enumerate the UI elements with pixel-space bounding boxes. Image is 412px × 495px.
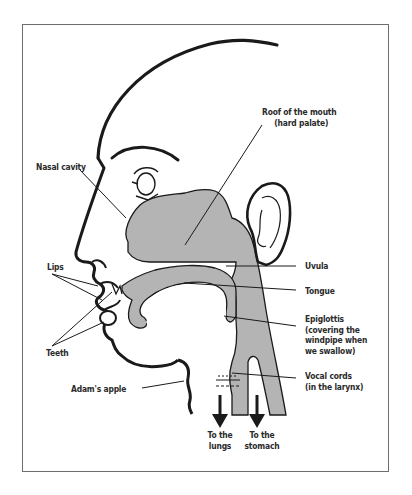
label-vocal-line1: Vocal cords <box>305 371 363 382</box>
label-adams-apple: Adam's apple <box>71 384 126 395</box>
skull-outline <box>98 40 277 158</box>
arrow-to-stomach-icon <box>249 395 265 428</box>
arrow-to-lungs-icon <box>212 395 228 428</box>
label-epiglottis: Epiglottis (covering the windpipe when w… <box>305 314 367 356</box>
label-nasal-cavity: Nasal cavity <box>36 162 86 173</box>
label-uvula: Uvula <box>305 261 328 272</box>
head-anatomy-illustration <box>0 0 412 495</box>
label-roof-line2: (hard palate) <box>262 118 336 129</box>
label-vocal-line2: (in the larynx) <box>305 382 363 393</box>
label-teeth: Teeth <box>46 348 69 359</box>
label-tongue: Tongue <box>305 286 335 297</box>
brow-line <box>112 147 178 160</box>
label-epiglottis-line2: (covering the <box>305 325 367 336</box>
teeth-leader-b <box>52 322 104 346</box>
label-vocal-cords: Vocal cords (in the larynx) <box>305 371 363 392</box>
neck-front <box>178 360 192 414</box>
label-epiglottis-line3: windpipe when <box>305 335 367 346</box>
label-lungs-line2: lungs <box>202 441 237 452</box>
label-roof-line1: Roof of the mouth <box>262 107 336 118</box>
label-lungs-line1: To the <box>202 430 237 441</box>
label-stomach-line2: stomach <box>243 441 282 452</box>
adam-leader <box>142 381 184 388</box>
lower-lip <box>104 300 120 310</box>
label-roof-of-mouth: Roof of the mouth (hard palate) <box>262 107 336 128</box>
label-epiglottis-line1: Epiglottis <box>305 314 367 325</box>
label-to-stomach: To the stomach <box>243 430 282 451</box>
label-lips: Lips <box>47 262 64 273</box>
lips-leader-a <box>52 274 98 286</box>
eye <box>132 168 158 200</box>
label-stomach-line1: To the <box>243 430 282 441</box>
label-to-lungs: To the lungs <box>202 430 237 451</box>
nasal-leader <box>80 170 126 218</box>
label-epiglottis-line4: we swallow) <box>305 346 367 357</box>
